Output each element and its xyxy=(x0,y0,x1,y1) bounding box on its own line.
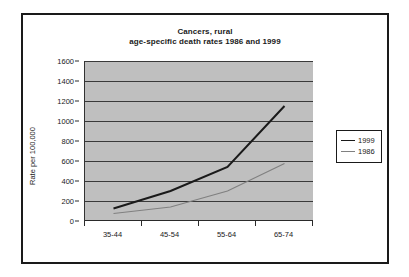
y-axis-tick-mark xyxy=(75,121,79,122)
y-axis-tick-label: 1400 xyxy=(57,77,74,86)
x-axis-category-label: 35-44 xyxy=(103,230,122,239)
y-axis-tick-label: 200 xyxy=(61,197,74,206)
chart-frame: Cancers, rural age-specific death rates … xyxy=(21,13,389,264)
y-axis-tick-mark xyxy=(75,181,79,182)
x-axis-category-label: 65-74 xyxy=(274,230,293,239)
y-axis-tick-label: 800 xyxy=(61,137,74,146)
x-axis: 35-4445-5455-6465-74 xyxy=(84,221,312,245)
y-axis-tick-label: 1200 xyxy=(57,97,74,106)
y-axis-tick-mark xyxy=(75,201,79,202)
y-axis-tick-mark xyxy=(75,161,79,162)
chart-legend: 19991986 xyxy=(336,130,382,163)
legend-swatch-icon xyxy=(341,151,355,152)
chart-title-line-1: Cancers, rural xyxy=(23,27,387,37)
y-axis-tick-label: 600 xyxy=(61,157,74,166)
legend-label: 1986 xyxy=(358,147,375,156)
legend-label: 1999 xyxy=(358,136,375,145)
y-axis-tick-label: 0 xyxy=(70,217,74,226)
x-axis-category-label: 55-64 xyxy=(217,230,236,239)
x-axis-tick-mark xyxy=(255,221,256,226)
y-axis-tick-mark xyxy=(75,61,79,62)
chart-title-line-2: age-specific death rates 1986 and 1999 xyxy=(23,37,387,47)
y-axis-tick-label: 400 xyxy=(61,177,74,186)
y-axis-tick-label: 1000 xyxy=(57,117,74,126)
y-axis-tick-mark xyxy=(75,101,79,102)
series-line-1999 xyxy=(114,106,285,209)
series-lines xyxy=(85,61,313,221)
y-axis-tick-mark xyxy=(75,141,79,142)
x-axis-tick-mark xyxy=(141,221,142,226)
y-axis-tick-label: 1600 xyxy=(57,57,74,66)
x-axis-tick-mark xyxy=(312,221,313,226)
x-axis-tick-mark xyxy=(198,221,199,226)
legend-entry-1986: 1986 xyxy=(341,146,381,157)
plot-area xyxy=(84,61,313,221)
series-line-1986 xyxy=(114,164,285,214)
legend-entry-1999: 1999 xyxy=(341,135,381,146)
y-axis-tick-mark xyxy=(75,81,79,82)
y-axis-title: Rate per 100,000 xyxy=(28,171,37,185)
x-axis-category-label: 45-54 xyxy=(160,230,179,239)
x-axis-tick-mark xyxy=(84,221,85,226)
y-axis-tick-labels: 16001400120010008006004002000 xyxy=(41,61,79,221)
chart-title: Cancers, rural age-specific death rates … xyxy=(23,27,387,47)
legend-swatch-icon xyxy=(341,140,355,141)
y-axis-tick-mark xyxy=(75,221,79,222)
